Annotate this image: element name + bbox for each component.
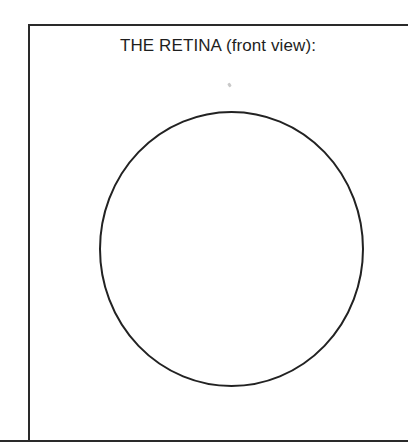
retina-diagram bbox=[0, 0, 417, 443]
retina-outline-circle bbox=[100, 112, 363, 386]
